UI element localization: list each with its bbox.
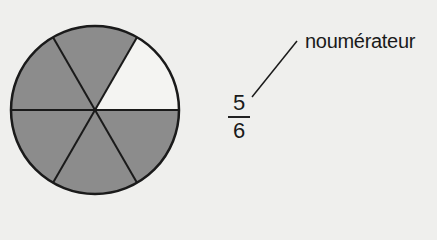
fraction-numerator: 5 (228, 92, 250, 114)
leader-line (252, 41, 297, 97)
fraction: 5 6 (228, 92, 250, 142)
pie-chart (11, 26, 179, 194)
fraction-denominator: 6 (228, 120, 250, 142)
numerator-label: noumérateur (305, 30, 415, 53)
